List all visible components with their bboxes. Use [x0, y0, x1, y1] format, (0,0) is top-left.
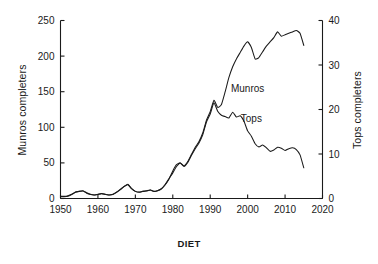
svg-text:1980: 1980	[162, 204, 185, 215]
svg-text:1970: 1970	[124, 204, 147, 215]
figure-caption: DIET	[0, 238, 378, 249]
annotation-tops: Tops	[241, 113, 262, 124]
chart-figure: 0501001502002500102030401950196019701980…	[0, 0, 378, 264]
annotation-munros: Munros	[231, 83, 264, 94]
svg-text:1990: 1990	[199, 204, 222, 215]
svg-text:1960: 1960	[87, 204, 110, 215]
svg-text:40: 40	[329, 15, 341, 26]
axes: 0501001502002500102030401950196019701980…	[38, 15, 340, 215]
y-axis-right-title: Tops completers	[351, 50, 363, 170]
svg-text:2000: 2000	[237, 204, 260, 215]
data-series	[61, 30, 304, 196]
y-axis-left-title: Munros completers	[16, 50, 28, 170]
svg-text:30: 30	[329, 60, 341, 71]
svg-text:2020: 2020	[311, 204, 334, 215]
svg-text:200: 200	[38, 51, 55, 62]
svg-text:10: 10	[329, 149, 341, 160]
svg-text:0: 0	[329, 193, 335, 204]
svg-text:20: 20	[329, 104, 341, 115]
svg-text:0: 0	[49, 193, 55, 204]
svg-text:1950: 1950	[49, 204, 72, 215]
svg-text:250: 250	[38, 15, 55, 26]
svg-text:150: 150	[38, 86, 55, 97]
svg-text:100: 100	[38, 122, 55, 133]
series-line-tops	[61, 103, 304, 197]
series-line-munros	[61, 30, 304, 196]
dual-axis-line-chart: 0501001502002500102030401950196019701980…	[0, 0, 378, 264]
svg-text:50: 50	[43, 157, 55, 168]
svg-text:2010: 2010	[274, 204, 297, 215]
series-annotations: MunrosTops	[231, 83, 264, 124]
